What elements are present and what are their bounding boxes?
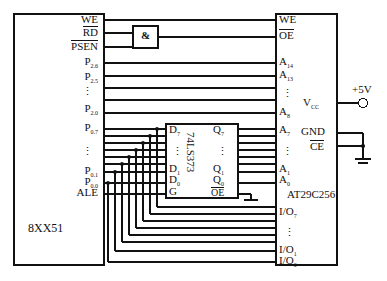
supply-terminal-circle [359,99,368,108]
memory-addr-ellipsis-upper: ⋮ [282,88,293,99]
memory-pin-gnd: GND [301,126,325,137]
latch-pin-d7: D7 [169,124,180,137]
junction-dot-p07 [155,127,159,131]
junction-dot-p02 [120,162,124,166]
mcu-name-label: 8XX51 [28,222,63,234]
latch-pin-g: G [169,186,177,197]
memory-pin-vcc: VCC [303,97,319,110]
latch-pin-q0: Q0 [213,174,224,187]
mcu-pin-p07: P0.7 [84,122,98,135]
memory-pin-oe: OE [279,29,294,42]
junction-dot-p05 [141,141,145,145]
mcu-pin-ale: ALE [77,187,98,198]
mcu-p0-ellipsis: ⋮ [82,146,93,157]
mcu-pin-p26: P2.6 [84,56,98,69]
memory-pin-a8: A8 [279,106,290,119]
and-gate-symbol: & [141,30,150,41]
mcu-pin-p20: P2.0 [84,103,98,116]
mcu-p2-ellipsis: ⋮ [82,86,93,97]
latch-q-ellipsis: ⋮ [217,146,228,157]
latch-pin-q7: Q7 [213,124,224,137]
supply-label: +5V [352,84,372,95]
memory-pin-io0: I/O0 [279,255,297,268]
memory-pin-a0: A0 [279,174,290,187]
memory-pin-we: WE [279,13,296,26]
memory-pin-a7: A7 [279,124,290,137]
memory-pin-a13: A13 [279,69,293,82]
latch-d-ellipsis: ⋮ [172,146,183,157]
latch-name-label: 74LS373 [185,132,196,172]
memory-pin-io7: I/O7 [279,206,297,219]
latch-pin-oe: OE [211,187,224,199]
junction-dot-p04 [134,148,138,152]
memory-io-ellipsis: ⋮ [284,227,295,238]
junction-dot-gnd-ce [361,144,365,148]
junction-dot-p03 [127,155,131,159]
junction-dot-p00 [106,181,110,185]
memory-name-label: AT29C256 [287,189,335,200]
junction-dot-p06 [148,134,152,138]
schematic-canvas: WE RD PSEN P2.6 P2.5 ⋮ P2.0 P0.7 ⋮ P0.1 … [0,0,387,281]
mcu-pin-psen: PSEN [71,40,98,53]
memory-addr-ellipsis-lower: ⋮ [282,146,293,157]
mcu-pin-rd: RD [83,26,98,39]
junction-dot-p01 [113,170,117,174]
memory-pin-ce: CE [310,140,324,153]
mcu-pin-p25: P2.5 [84,71,98,84]
mcu-pin-we: WE [81,13,98,26]
